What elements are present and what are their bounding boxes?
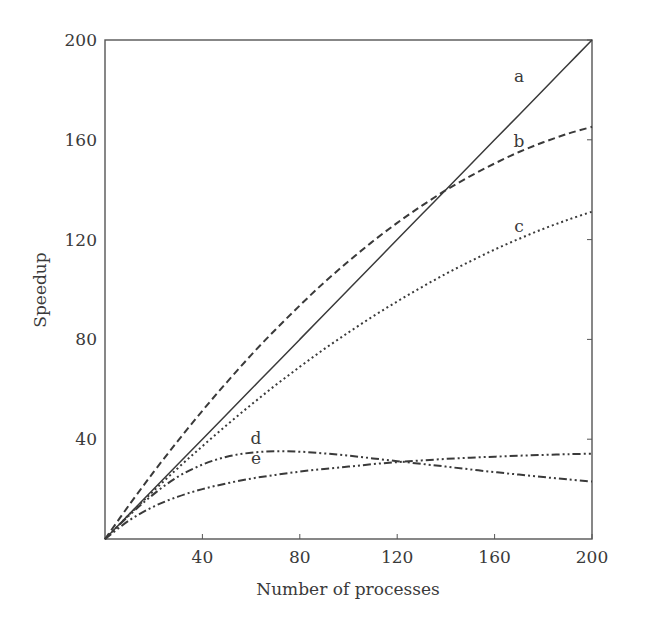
curve-e [105,454,592,539]
curve-label-d: d [251,428,262,448]
curve-label-e: e [251,448,261,468]
x-tick-label: 40 [192,547,214,567]
curve-a [105,40,592,539]
x-tick-label: 120 [381,547,413,567]
x-axis-title: Number of processes [256,579,439,599]
y-tick-label: 160 [65,130,97,150]
y-tick-label: 80 [75,329,97,349]
tick-labels: 40801201602004080120160200 [65,30,609,567]
curve-label-c: c [514,216,524,236]
curve-label-b: b [514,131,525,151]
y-tick-label: 120 [65,230,97,250]
curve-label-a: a [514,66,524,86]
speedup-chart: 40801201602004080120160200 abcde Number … [0,0,645,631]
curve-c [105,212,592,539]
x-tick-label: 80 [289,547,311,567]
curves [105,40,592,539]
curve-labels: abcde [251,66,525,468]
x-tick-label: 160 [478,547,510,567]
y-tick-label: 200 [65,30,97,50]
x-tick-label: 200 [576,547,608,567]
y-tick-label: 40 [75,429,97,449]
y-axis-title: Speedup [30,252,50,327]
